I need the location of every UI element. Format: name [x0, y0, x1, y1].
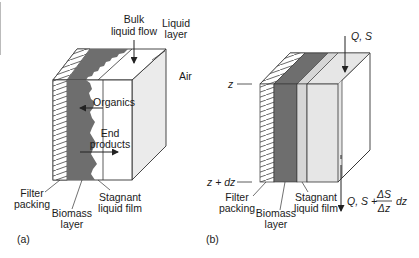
filter-packing-front: [53, 80, 67, 180]
panel-b: z z + dz Q, S Filter packing Biomass lay…: [206, 30, 408, 245]
bulk-flow-label-2: liquid flow: [111, 25, 158, 37]
filter-packing-front: [260, 84, 274, 182]
end-products-label-2: products: [90, 138, 130, 150]
fraction-denominator: Δz: [377, 202, 391, 214]
z-label: z: [227, 78, 234, 90]
biomass-front: [274, 84, 297, 182]
air-label: Air: [179, 70, 192, 82]
z-dz-label: z + dz: [206, 176, 236, 188]
outflow-suffix: dz: [396, 195, 408, 207]
bulk-flow-label-1: Bulk: [124, 13, 145, 25]
stagnant-label-2: liquid film: [98, 202, 142, 214]
stagnant-film-front: [297, 84, 307, 182]
biomass-leader: [280, 182, 285, 210]
filter-packing-leader: [45, 180, 60, 192]
fraction-numerator: ΔS: [376, 188, 391, 200]
inflow-label: Q, S: [351, 30, 372, 42]
outflow-prefix: Q, S +: [347, 195, 377, 207]
panel-a: Bulk liquid flow Liquid layer Air Organi…: [14, 13, 192, 245]
liquid-layer-label-2: layer: [165, 28, 188, 40]
panel-b-caption: (b): [206, 233, 219, 245]
stagnant-leader: [98, 180, 110, 190]
filter-packing-label-2: packing: [14, 198, 50, 210]
panel-a-caption: (a): [17, 233, 30, 245]
biomass-leader: [72, 180, 82, 209]
filter-packing-label-2: packing: [219, 202, 255, 214]
biofilm-diagram: Bulk liquid flow Liquid layer Air Organi…: [0, 0, 419, 258]
stagnant-label-2: liquid film: [294, 202, 338, 214]
biomass-label-2: layer: [265, 218, 288, 230]
liquid-layer-front: [307, 84, 338, 182]
biomass-label-2: layer: [61, 218, 84, 230]
filter-packing-leader: [253, 182, 266, 196]
organics-label: Organics: [93, 96, 135, 108]
